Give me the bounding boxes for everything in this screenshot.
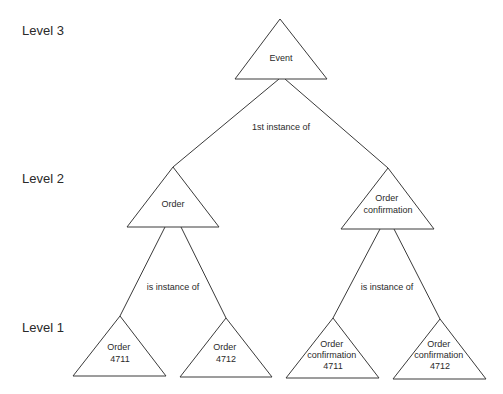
node-order-confirmation-line-2: confirmation: [363, 205, 412, 215]
node-order-confirmation-4711-line-2: confirmation: [307, 350, 356, 360]
node-order-4712-line-1: Order: [213, 342, 236, 352]
node-order-confirmation-4712-line-1: Order: [427, 339, 450, 349]
triangle-order: [127, 167, 219, 227]
node-event-line-1: Event: [269, 53, 293, 63]
edge-order-confirmation-to-4711: [333, 229, 380, 318]
relation-label-confirmation-is-instance-of: is instance of: [361, 282, 414, 292]
node-order-4712-line-2: 4712: [216, 354, 236, 364]
node-order-4712: Order 4712: [180, 318, 272, 377]
relation-label-order-is-instance-of: is instance of: [147, 282, 200, 292]
relation-label-1st-instance-of: 1st instance of: [252, 122, 311, 132]
level-2-label: Level 2: [22, 171, 64, 186]
node-order-confirmation-4712: Order confirmation 4712: [393, 319, 486, 379]
hierarchy-diagram: Level 3 Level 2 Level 1 1st instance of …: [0, 0, 503, 394]
node-order: Order: [127, 167, 219, 227]
edge-order-to-order-4712: [181, 227, 226, 318]
node-order-confirmation-line-1: Order: [375, 193, 398, 203]
triangle-event: [235, 19, 327, 79]
level-1-label: Level 1: [22, 320, 64, 335]
node-order-confirmation-4712-line-2: confirmation: [414, 350, 463, 360]
edge-order-to-order-4711: [120, 227, 165, 316]
node-order-label: Order: [161, 199, 184, 209]
level-3-label: Level 3: [22, 23, 64, 38]
node-order-confirmation-4711-line-3: 4711: [323, 361, 342, 371]
node-order-confirmation-4711: Order confirmation 4711: [286, 318, 379, 378]
node-order-4711-line-2: 4711: [110, 354, 129, 364]
node-event-label: Event: [269, 53, 293, 63]
node-order-confirmation-4712-line-3: 4712: [430, 361, 450, 371]
node-order-4711: Order 4711: [73, 316, 166, 376]
node-event: Event: [235, 19, 327, 79]
edge-order-confirmation-to-4712: [394, 229, 440, 319]
node-order-line-1: Order: [161, 199, 184, 209]
node-order-4711-line-1: Order: [107, 342, 130, 352]
node-order-confirmation-4711-line-1: Order: [320, 339, 343, 349]
node-order-confirmation: Order confirmation: [341, 168, 434, 229]
